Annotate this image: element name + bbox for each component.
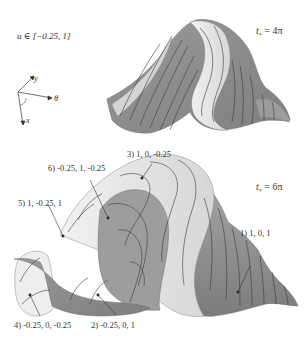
time-label-top: t* = 4π	[256, 26, 282, 38]
figure: u ∈ [−0.25, 1] y θ x t* = 4π t* = 6π 1) …	[0, 0, 304, 347]
axis-triad	[18, 76, 52, 125]
axis-label-theta: θ	[54, 94, 58, 103]
time-label-bottom: t* = 6π	[256, 182, 282, 194]
annotation-6: 6) -0.25, 1, -0.25	[48, 164, 105, 173]
axis-label-y: y	[34, 74, 38, 83]
surface-plots	[0, 0, 304, 347]
parameter-range-label: u ∈ [−0.25, 1]	[17, 32, 71, 41]
axis-label-x: x	[26, 116, 30, 125]
annotation-3: 3) 1, 0, -0.25	[127, 150, 171, 159]
annotation-4: 4) -0.25, 0, -0.25	[14, 321, 71, 330]
annotation-1: 1) 1, 0, 1	[240, 229, 270, 238]
annotation-5: 5) 1, -0.25, 1	[18, 199, 62, 208]
annotation-2: 2) -0.25, 0, 1	[91, 321, 135, 330]
